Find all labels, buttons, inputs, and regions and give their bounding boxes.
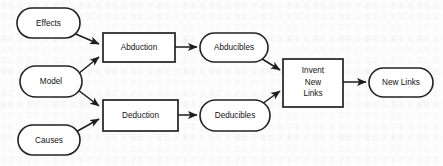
node-effects-label: Effects — [36, 19, 61, 28]
scanned-diagram-page: Effects Model Causes Abduction Deduction… — [0, 0, 443, 166]
node-abduction-label: Abduction — [121, 43, 158, 52]
edge-model-to-deduction — [78, 90, 99, 106]
edge-model-to-abduction — [78, 57, 99, 74]
node-effects[interactable]: Effects — [17, 8, 80, 38]
node-invent-new-links[interactable]: Invent New Links — [283, 59, 343, 107]
node-model[interactable]: Model — [20, 66, 82, 97]
node-deducibles-label: Deducibles — [215, 111, 256, 120]
node-new-links-label: New Links — [382, 78, 420, 87]
node-invent-new-links-label-line1: Invent — [302, 66, 325, 75]
node-abduction[interactable]: Abduction — [103, 33, 175, 62]
node-deduction-label: Deduction — [122, 111, 159, 120]
node-abducibles[interactable]: Abducibles — [200, 33, 268, 62]
node-invent-new-links-label-line3: Links — [303, 89, 322, 98]
node-invent-new-links-label-line2: New — [305, 78, 321, 87]
node-deduction[interactable]: Deduction — [103, 100, 178, 131]
node-deducibles[interactable]: Deducibles — [200, 100, 270, 131]
node-model-label: Model — [40, 77, 62, 86]
node-new-links[interactable]: New Links — [369, 68, 433, 97]
node-causes-label: Causes — [35, 136, 63, 145]
node-abducibles-label: Abducibles — [214, 43, 254, 52]
edge-deducibles-to-invent — [262, 91, 280, 104]
flowchart-canvas: Effects Model Causes Abduction Deduction… — [0, 0, 443, 166]
node-causes[interactable]: Causes — [18, 125, 80, 155]
